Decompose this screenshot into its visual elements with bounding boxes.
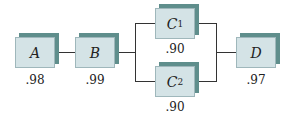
reliability-b: .99	[75, 73, 115, 87]
reliability-diagram: A .98 B .99 C1 .90 C2 .90 D .97	[0, 0, 292, 119]
block-c2: C2	[155, 66, 195, 97]
block-label: C	[167, 74, 178, 90]
block-d: D	[236, 37, 276, 68]
split-bracket-vertical	[135, 23, 136, 82]
reliability-a: .98	[15, 73, 55, 87]
reliability-c1: .90	[155, 42, 195, 56]
line-split-c2	[135, 81, 155, 82]
block-subscript: 1	[177, 19, 183, 29]
block-a: A	[15, 37, 55, 68]
line-join-d	[216, 52, 236, 53]
block-label: D	[250, 45, 261, 61]
block-subscript: 2	[177, 77, 183, 87]
block-b: B	[75, 37, 115, 68]
block-face: A	[15, 37, 55, 68]
block-label: B	[90, 45, 100, 61]
reliability-d: .97	[236, 73, 276, 87]
block-face: C2	[155, 66, 195, 97]
reliability-c2: .90	[155, 100, 195, 114]
block-label: A	[30, 45, 40, 61]
block-c1: C1	[155, 8, 195, 39]
line-split-c1	[135, 23, 155, 24]
block-face: B	[75, 37, 115, 68]
block-label: C	[167, 16, 178, 32]
block-face: D	[236, 37, 276, 68]
block-face: C1	[155, 8, 195, 39]
